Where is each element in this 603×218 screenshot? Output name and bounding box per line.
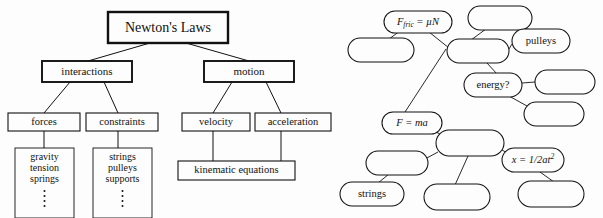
node-label: motion	[233, 65, 265, 77]
oval-blank-3[interactable]	[447, 39, 509, 63]
node-label: velocity	[199, 116, 234, 127]
leaf-item: kinematic equations	[194, 164, 278, 175]
oval-x-equals-half-at-squared[interactable]: x = 1/2at2	[502, 148, 564, 172]
node-label: constraints	[99, 116, 145, 127]
oval-pulleys[interactable]: pulleys	[512, 29, 570, 53]
oval-blank-7[interactable]	[366, 151, 428, 175]
oval-f-fric[interactable]: Ffric = µN	[384, 11, 452, 33]
node-newtons-laws[interactable]: Newton's Laws	[108, 12, 228, 43]
oval-label: strings	[358, 188, 386, 199]
node-interactions[interactable]: interactions	[42, 61, 132, 82]
node-motion[interactable]: motion	[204, 61, 294, 82]
oval-strings[interactable]: strings	[340, 182, 404, 206]
node-velocity[interactable]: velocity	[182, 113, 250, 131]
figure-canvas: Newton's Laws interactions motion forces…	[0, 0, 603, 218]
oval-energy[interactable]: energy?	[464, 73, 522, 97]
oval-label: F = ma	[395, 117, 428, 128]
oval-f-equals-ma[interactable]: F = ma	[382, 112, 442, 134]
oval-blank-4[interactable]	[535, 70, 595, 94]
leaf-item: springs	[30, 173, 59, 184]
oval-blank-2[interactable]	[468, 6, 532, 30]
oval-label: energy?	[476, 79, 509, 90]
leaf-kinematic-equations[interactable]: kinematic equations	[178, 161, 295, 180]
node-acceleration[interactable]: acceleration	[255, 113, 331, 131]
leaf-forces-examples[interactable]: gravity tension springs	[15, 148, 74, 218]
node-label: interactions	[61, 65, 112, 77]
oval-label: x = 1/2at2	[511, 151, 555, 165]
oval-blank-1[interactable]	[348, 38, 414, 62]
oval-label: Ffric = µN	[396, 16, 440, 29]
oval-blank-8[interactable]	[424, 184, 490, 210]
oval-label: pulleys	[526, 35, 556, 46]
leaf-constraints-examples[interactable]: strings pulleys supports	[93, 148, 152, 218]
node-constraints[interactable]: constraints	[86, 113, 158, 131]
node-forces[interactable]: forces	[8, 113, 80, 131]
oval-blank-9[interactable]	[518, 181, 584, 207]
node-label: Newton's Laws	[125, 20, 211, 35]
leaf-item: pulleys	[108, 162, 137, 173]
oval-blank-5[interactable]	[524, 102, 584, 126]
leaf-item: tension	[30, 162, 59, 173]
leaf-item: supports	[106, 173, 140, 184]
oval-blank-6[interactable]	[436, 130, 504, 156]
concept-map-figure: Newton's Laws interactions motion forces…	[0, 0, 603, 218]
node-label: forces	[31, 116, 57, 127]
leaf-item: strings	[109, 151, 136, 162]
leaf-item: gravity	[30, 151, 58, 162]
node-label: acceleration	[268, 116, 319, 127]
